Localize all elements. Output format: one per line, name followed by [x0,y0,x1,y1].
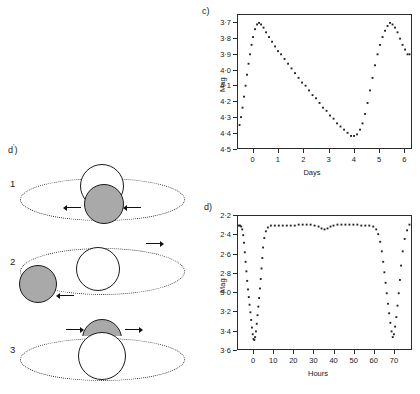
orbit-diagram-1: 1 [8,160,193,232]
primary-star-2 [76,247,120,291]
x-tick-mark [313,350,314,354]
figure-canvas: c) d) d') 3·73·83·94·04·14·24·34·44·5 01… [0,0,420,394]
x-tick-label: 5 [377,155,381,164]
x-tick-label: 70 [390,356,398,365]
orbit-diagram-2-number: 2 [10,256,15,267]
x-tick-mark [253,350,254,354]
x-tick-label: 6 [402,155,406,164]
y-tick-mark [233,85,237,86]
x-tick-mark [404,149,405,153]
x-axis-title-d: Hours [308,369,328,378]
y-tick-label: 3·8 [203,33,231,42]
y-tick-label: 3·7 [203,17,231,26]
x-tick-mark [354,149,355,153]
y-tick-label: 3·4 [203,326,231,335]
y-tick-mark [233,117,237,118]
x-tick-label: 0 [251,155,255,164]
plot-area-d [237,215,412,350]
plot-area-c [237,14,412,149]
secondary-star-2 [19,265,57,303]
x-tick-label: 20 [289,356,297,365]
x-tick-mark [293,350,294,354]
x-tick-label: 0 [251,356,255,365]
y-tick-mark [233,70,237,71]
y-tick-mark [233,101,237,102]
y-tick-label: 2·8 [203,268,231,277]
velocity-arrow-1-left [67,207,81,208]
x-tick-label: 3 [326,155,330,164]
x-tick-label: 1 [276,155,280,164]
x-tick-mark [273,350,274,354]
x-tick-label: 2 [301,155,305,164]
x-tick-label: 30 [309,356,317,365]
x-tick-mark [303,149,304,153]
x-tick-mark [374,350,375,354]
y-axis-title-d: Mag [218,278,227,293]
y-tick-mark [233,38,237,39]
y-tick-mark [233,234,237,235]
x-tick-label: 40 [329,356,337,365]
x-tick-mark [394,350,395,354]
y-tick-mark [233,215,237,216]
y-tick-mark [233,254,237,255]
x-tick-mark [253,149,254,153]
velocity-arrow-1-right [127,207,141,208]
orbit-diagram-3: 3 [8,316,193,392]
x-tick-label: 60 [370,356,378,365]
x-tick-label: 50 [349,356,357,365]
x-tick-mark [334,350,335,354]
data-points-d [238,216,411,349]
x-axis-title-c: Days [303,168,320,177]
velocity-arrow-3-left [66,329,80,330]
y-tick-label: 4·3 [203,113,231,122]
y-tick-mark [233,273,237,274]
secondary-star-1 [84,184,124,224]
y-tick-label: 2·6 [203,249,231,258]
y-tick-mark [233,149,237,150]
y-tick-mark [233,133,237,134]
x-tick-label: 10 [269,356,277,365]
velocity-arrow-2-left [60,295,74,296]
primary-star-3 [78,332,126,380]
y-tick-mark [233,22,237,23]
y-tick-label: 2·2 [203,211,231,220]
y-tick-label: 3·2 [203,307,231,316]
y-tick-label: 3·6 [203,346,231,355]
y-tick-mark [233,292,237,293]
y-tick-label: 4·2 [203,97,231,106]
x-tick-mark [329,149,330,153]
x-tick-label: 4 [352,155,356,164]
x-tick-mark [354,350,355,354]
y-tick-mark [233,311,237,312]
orbit-diagram-2: 2 [8,238,193,312]
x-tick-mark [379,149,380,153]
orbit-diagram-1-number: 1 [10,178,15,189]
y-tick-label: 2·4 [203,230,231,239]
y-tick-mark [233,54,237,55]
y-tick-label: 3·9 [203,49,231,58]
velocity-arrow-3-right [125,329,139,330]
y-axis-title-c: Mag [218,77,227,92]
velocity-arrow-2-right [146,243,160,244]
y-tick-label: 4·5 [203,145,231,154]
data-points-c [238,15,411,148]
orbit-diagram-3-number: 3 [10,344,15,355]
x-tick-mark [278,149,279,153]
y-tick-label: 4·4 [203,129,231,138]
y-tick-label: 4·0 [203,65,231,74]
y-tick-mark [233,350,237,351]
y-tick-mark [233,331,237,332]
